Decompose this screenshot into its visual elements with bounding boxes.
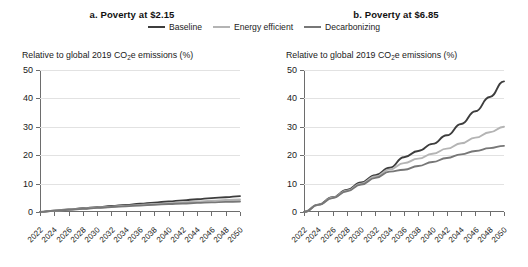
y-tick-label: 0 xyxy=(292,207,297,217)
x-tick-mark xyxy=(197,212,198,216)
y-tick-label: 10 xyxy=(23,179,33,189)
x-tick-mark xyxy=(211,212,212,216)
x-tick-mark xyxy=(404,212,405,216)
axis-title-post-a: e emissions (%) xyxy=(131,50,194,60)
plot-area-b: 01020304050 2022202420262028203020322034… xyxy=(304,70,504,212)
x-tick-label: 2050 xyxy=(490,225,509,244)
x-tick-mark xyxy=(461,212,462,216)
x-tick-mark xyxy=(54,212,55,216)
x-tick-mark xyxy=(418,212,419,216)
x-tick-mark xyxy=(69,212,70,216)
y-tick-label: 40 xyxy=(23,93,33,103)
x-tick-mark xyxy=(240,212,241,216)
x-tick-mark xyxy=(83,212,84,216)
x-tick-mark xyxy=(318,212,319,216)
x-tick-mark xyxy=(111,212,112,216)
x-tick-mark xyxy=(390,212,391,216)
x-tick-mark xyxy=(126,212,127,216)
x-tick-mark xyxy=(375,212,376,216)
x-tick-mark xyxy=(140,212,141,216)
y-tick-label: 50 xyxy=(23,65,33,75)
axis-title-pre-b: Relative to global 2019 CO xyxy=(286,50,391,60)
y-tick-label: 0 xyxy=(28,207,33,217)
x-tick-mark xyxy=(347,212,348,216)
x-tick-mark xyxy=(226,212,227,216)
panel-a-axis-title: Relative to global 2019 CO2e emissions (… xyxy=(22,50,193,60)
x-tick-mark xyxy=(504,212,505,216)
x-tick-mark xyxy=(433,212,434,216)
panel-b-axis-title: Relative to global 2019 CO2e emissions (… xyxy=(286,50,457,60)
series-layer-a xyxy=(40,70,240,212)
y-tick-label: 30 xyxy=(23,122,33,132)
axis-title-post-b: e emissions (%) xyxy=(395,50,458,60)
chart-panel-a: Relative to global 2019 CO2e emissions (… xyxy=(0,0,264,267)
y-tick-label: 30 xyxy=(287,122,297,132)
y-tick-label: 50 xyxy=(287,65,297,75)
axis-title-pre-a: Relative to global 2019 CO xyxy=(22,50,127,60)
x-tick-label: 2050 xyxy=(226,225,245,244)
axis-title-sub-a: 2 xyxy=(127,54,131,61)
x-tick-mark xyxy=(490,212,491,216)
series-line-baseline xyxy=(304,81,504,212)
plot-area-a: 01020304050 2022202420262028203020322034… xyxy=(40,70,240,212)
x-tick-mark xyxy=(154,212,155,216)
x-tick-mark xyxy=(333,212,334,216)
x-tick-mark xyxy=(475,212,476,216)
series-line-decarbonizing xyxy=(304,146,504,212)
axis-title-sub-b: 2 xyxy=(391,54,395,61)
x-tick-mark xyxy=(447,212,448,216)
y-tick-label: 20 xyxy=(23,150,33,160)
series-layer-b xyxy=(304,70,504,212)
y-tick-label: 10 xyxy=(287,179,297,189)
x-tick-mark xyxy=(361,212,362,216)
x-tick-mark xyxy=(183,212,184,216)
chart-panel-b: Relative to global 2019 CO2e emissions (… xyxy=(264,0,528,267)
y-tick-label: 40 xyxy=(287,93,297,103)
x-tick-mark xyxy=(97,212,98,216)
figure: a. Poverty at $2.15 b. Poverty at $6.85 … xyxy=(0,0,528,267)
x-tick-mark xyxy=(169,212,170,216)
y-tick-label: 20 xyxy=(287,150,297,160)
